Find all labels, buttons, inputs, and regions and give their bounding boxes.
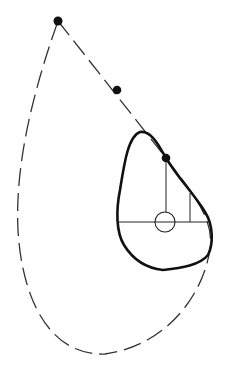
inner-blob-outline	[117, 132, 211, 270]
contact-point	[162, 154, 171, 163]
teardrop-diagram	[0, 0, 227, 369]
apex-point	[54, 17, 63, 26]
mid-point	[113, 86, 122, 95]
outer-dashed-teardrop	[18, 21, 211, 354]
